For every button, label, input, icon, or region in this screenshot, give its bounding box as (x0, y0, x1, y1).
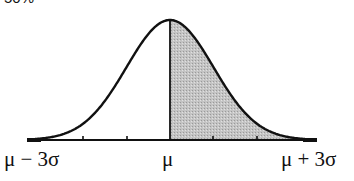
axis-end-cap-left (27, 138, 41, 142)
label-mu: μ (162, 147, 173, 172)
shaded-area (170, 20, 305, 140)
label-mu-plus-3-sigma: μ + 3σ (281, 147, 336, 172)
axis-end-cap-right (303, 138, 317, 142)
label-mu-minus-3-sigma: μ − 3σ (4, 147, 59, 172)
